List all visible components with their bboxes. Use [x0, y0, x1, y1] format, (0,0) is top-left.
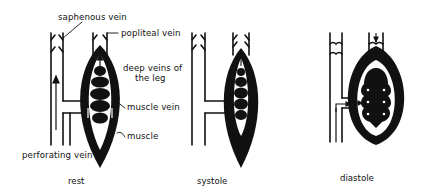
label-saphenous-vein: saphenous vein	[58, 12, 127, 22]
diastole-panel-drawing	[0, 0, 426, 192]
diagram-canvas: saphenous vein popliteal vein deep veins…	[0, 0, 426, 192]
caption-diastole: diastole	[340, 173, 374, 183]
label-muscle: muscle	[127, 131, 158, 141]
label-deep-veins-line1: deep veins of	[123, 63, 182, 73]
label-perforating-vein: perforating vein	[22, 150, 93, 160]
label-muscle-vein: muscle vein	[127, 102, 180, 112]
label-popliteal-vein: popliteal vein	[121, 28, 181, 38]
label-deep-veins-line2: the leg	[135, 73, 166, 83]
caption-rest: rest	[68, 176, 84, 186]
caption-systole: systole	[197, 176, 227, 186]
